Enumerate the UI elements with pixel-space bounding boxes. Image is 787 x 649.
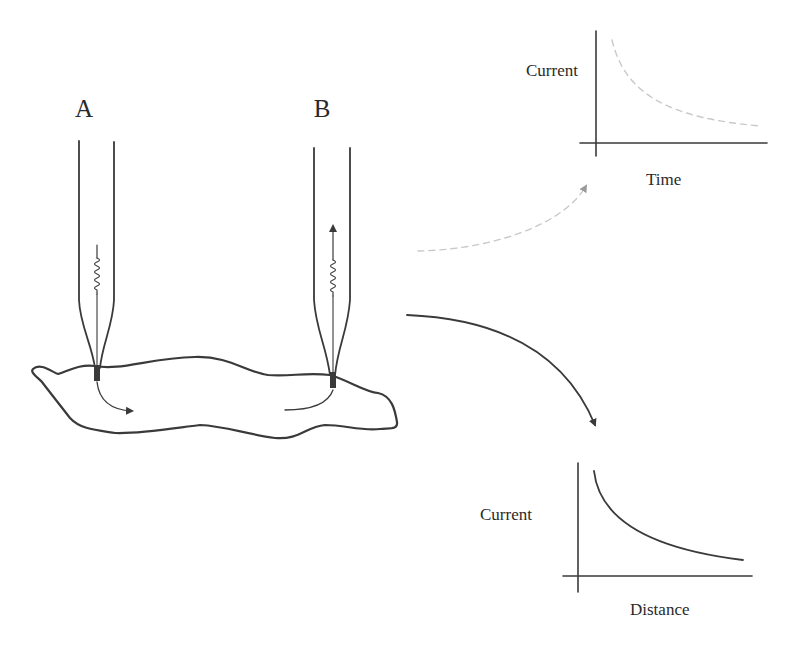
electrode-b bbox=[285, 148, 350, 410]
electrode-a-tip bbox=[94, 365, 100, 381]
sample-surface bbox=[32, 357, 397, 438]
connector-to-time-graph bbox=[418, 186, 586, 251]
electrode-a bbox=[79, 141, 132, 411]
diagram-canvas: A B Current Time Current bbox=[0, 0, 787, 649]
time-graph: Current Time bbox=[526, 31, 767, 189]
electrode-b-label: B bbox=[314, 95, 331, 122]
electrode-b-spring-icon bbox=[331, 260, 336, 296]
electrode-b-surface-path bbox=[285, 390, 333, 410]
distance-graph: Current Distance bbox=[480, 463, 752, 619]
electrode-a-left-wall bbox=[79, 141, 95, 368]
distance-graph-xlabel: Distance bbox=[630, 600, 689, 619]
electrode-a-right-wall bbox=[100, 142, 114, 368]
electrode-b-tip bbox=[330, 372, 336, 388]
electrode-a-spring-icon bbox=[95, 258, 100, 294]
distance-graph-curve bbox=[594, 471, 743, 560]
distance-graph-ylabel: Current bbox=[480, 505, 532, 524]
time-graph-curve bbox=[612, 40, 760, 126]
time-graph-xlabel: Time bbox=[646, 170, 681, 189]
electrode-b-left-wall bbox=[314, 148, 330, 375]
electrode-a-current-arrow bbox=[97, 382, 132, 411]
electrode-b-right-wall bbox=[335, 148, 350, 375]
connector-to-distance-graph bbox=[407, 315, 595, 425]
time-graph-ylabel: Current bbox=[526, 61, 578, 80]
electrode-a-label: A bbox=[75, 95, 93, 122]
